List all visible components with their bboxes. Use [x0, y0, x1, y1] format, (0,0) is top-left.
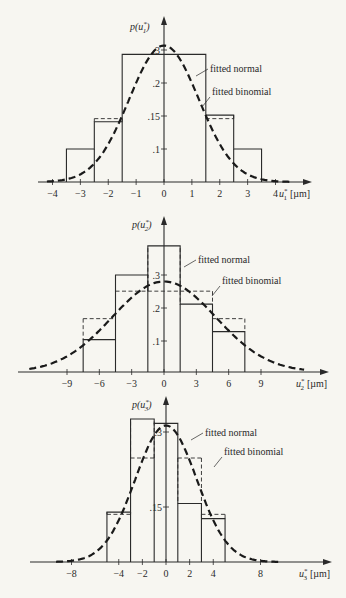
- y-tick-label: .2: [153, 78, 161, 89]
- x-tick-label: 3: [194, 378, 199, 389]
- x-tick-label: −3: [75, 188, 86, 199]
- x-axis-arrow-icon: [320, 369, 329, 375]
- y-axis-title: p(u*3): [131, 398, 152, 413]
- x-axis-arrow-icon: [303, 179, 312, 185]
- y-tick-label: .2: [153, 303, 161, 314]
- x-tick-label: 3: [245, 188, 250, 199]
- fitted-normal-label: fitted normal: [198, 254, 250, 265]
- fitted-normal-label: fitted normal: [205, 427, 257, 438]
- x-tick-label: −2: [137, 568, 148, 579]
- x-axis-arrow-icon: [323, 559, 332, 565]
- y-axis-arrow-icon: [163, 396, 169, 405]
- y-axis-arrow-icon: [161, 216, 167, 225]
- fitted-binomial-label: fitted binomial: [224, 446, 283, 457]
- y-tick-label: .3: [153, 270, 161, 281]
- fitted-normal-curve: [29, 282, 304, 370]
- y-tick-label: .15: [150, 502, 163, 513]
- fitted-binomial-label: fitted binomial: [222, 275, 281, 286]
- y-tick-label: .15: [148, 111, 161, 122]
- x-tick-label: 2: [187, 568, 192, 579]
- x-tick-label: −6: [94, 378, 105, 389]
- x-tick-label: −9: [62, 378, 73, 389]
- x-tick-label: 9: [259, 378, 264, 389]
- figure: −4−3−2−101234.1.15.2.3fitted normalfitte…: [0, 0, 346, 598]
- chart-panel-2: −9−6−30369.1.2.3fitted normalfitted bino…: [18, 216, 329, 392]
- chart-panel-3: −8−4−20248.15.3fitted normalfitted binom…: [30, 396, 332, 582]
- x-tick-label: 0: [162, 188, 167, 199]
- x-tick-label: 6: [226, 378, 231, 389]
- x-axis-title: u*2[µm]: [296, 377, 327, 392]
- x-tick-label: 0: [164, 568, 169, 579]
- x-tick-label: −8: [66, 568, 77, 579]
- chart-panel-1: −4−3−2−101234.1.15.2.3fitted normalfitte…: [38, 16, 312, 202]
- x-tick-label: 1: [189, 188, 194, 199]
- x-tick-label: −3: [126, 378, 137, 389]
- fitted-binomial-label: fitted binomial: [212, 86, 271, 97]
- fitted-normal-label: fitted normal: [210, 63, 262, 74]
- x-tick-label: −2: [103, 188, 114, 199]
- y-tick-label: .1: [153, 144, 161, 155]
- x-tick-label: 0: [162, 378, 167, 389]
- x-axis-title: u*3[µm]: [299, 567, 330, 582]
- y-tick-label: .1: [153, 336, 161, 347]
- y-axis-title: p(u*2): [131, 218, 152, 233]
- x-tick-label: 2: [217, 188, 222, 199]
- y-axis-arrow-icon: [161, 16, 167, 25]
- x-tick-label: 8: [258, 568, 263, 579]
- x-tick-label: 4: [273, 188, 278, 199]
- x-tick-label: −1: [131, 188, 142, 199]
- x-tick-label: −4: [47, 188, 58, 199]
- x-tick-label: −4: [113, 568, 124, 579]
- x-axis-title: u*1[µm]: [279, 187, 310, 202]
- y-axis-title: p(u*1): [129, 20, 150, 35]
- x-tick-label: 4: [211, 568, 216, 579]
